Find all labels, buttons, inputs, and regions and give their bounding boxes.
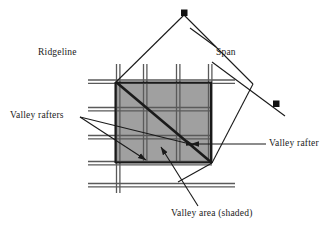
span-marker-right (273, 101, 280, 108)
span-dimension-line (212, 62, 285, 116)
diamond-edge-lower-left (178, 163, 212, 182)
span-leader-line (190, 28, 216, 47)
span-marker-top (181, 10, 188, 17)
diamond-edge-upper-left (116, 15, 184, 82)
diamond-edge-lower-right (212, 84, 253, 163)
label-valley-rafters: Valley rafters (10, 110, 64, 121)
roof-valley-diagram: Ridgeline Span Valley rafters Valley raf… (0, 0, 327, 229)
label-ridgeline: Ridgeline (38, 47, 77, 58)
horizontal-rafter-5 (88, 184, 235, 187)
label-span: Span (216, 47, 236, 58)
label-valley-rafter: Valley rafter (269, 138, 319, 149)
label-valley-area: Valley area (shaded) (171, 208, 253, 219)
